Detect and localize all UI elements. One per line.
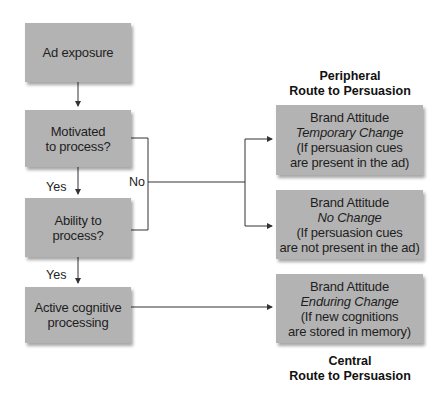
central-line-2: Route to Persuasion [270, 369, 430, 384]
yes-label-1: Yes [46, 180, 66, 194]
no-change-title: Brand Attitude [310, 195, 389, 210]
enduring-change-box: Brand Attitude Enduring Change (If new c… [276, 274, 423, 343]
ability-line-2: process? [52, 228, 103, 243]
no-change-box: Brand Attitude No Change (If persuasion … [276, 190, 423, 259]
motivated-line-1: Motivated [51, 124, 106, 139]
ability-box: Ability to process? [25, 198, 131, 257]
yes-label-2: Yes [46, 268, 66, 282]
enduring-note-1: (If new cognitions [301, 309, 399, 324]
ad-exposure-box: Ad exposure [25, 23, 131, 82]
temporary-change: Temporary Change [296, 125, 404, 140]
temporary-change-box: Brand Attitude Temporary Change (If pers… [276, 105, 423, 175]
central-line-1: Central [270, 354, 430, 369]
enduring-change: Enduring Change [300, 294, 398, 309]
temporary-note-1: (If persuasion cues [296, 140, 402, 155]
active-processing-box: Active cognitive processing [25, 287, 131, 343]
no-change-note-2: are not present in the ad) [279, 240, 419, 255]
no-change-note-1: (If persuasion cues [296, 225, 402, 240]
ad-exposure-label: Ad exposure [43, 45, 114, 60]
peripheral-line-2: Route to Persuasion [270, 84, 430, 99]
temporary-title: Brand Attitude [310, 110, 389, 125]
active-line-1: Active cognitive [34, 300, 121, 315]
motivated-box: Motivated to process? [25, 110, 131, 167]
no-label: No [129, 175, 145, 189]
motivated-line-2: to process? [45, 139, 110, 154]
central-route-heading: Central Route to Persuasion [270, 354, 430, 384]
enduring-note-2: are stored in memory) [288, 324, 411, 339]
temporary-note-2: are present in the ad) [290, 155, 409, 170]
peripheral-line-1: Peripheral [270, 69, 430, 84]
no-change-change: No Change [318, 210, 382, 225]
active-line-2: processing [48, 315, 109, 330]
enduring-title: Brand Attitude [310, 279, 389, 294]
peripheral-route-heading: Peripheral Route to Persuasion [270, 69, 430, 99]
ability-line-1: Ability to [54, 213, 101, 228]
